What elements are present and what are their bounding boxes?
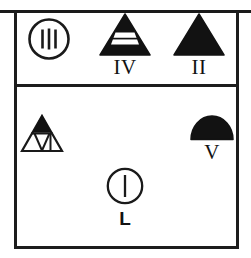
solid-semicircle-icon: [189, 114, 235, 141]
circle-three-bars-icon: [26, 16, 72, 62]
symbol-triangle-banded: IV: [99, 13, 151, 78]
circle-one-bar-icon: [105, 166, 145, 206]
symbol-circle-one-bar: L: [105, 166, 145, 228]
symbol-label-v: V: [204, 142, 220, 163]
triangle-inscribed-triangles-icon: [20, 114, 64, 154]
symbol-solid-triangle: II: [173, 13, 225, 78]
symbol-circle-three-bars: [26, 16, 72, 62]
symbol-label-iv: IV: [113, 57, 136, 78]
symbol-nested-triangle: [20, 114, 64, 154]
register-divider-rule: [14, 84, 239, 87]
symbol-solid-dome: V: [189, 114, 235, 163]
solid-triangle-icon: [173, 13, 225, 56]
symbol-label-ii: II: [192, 57, 207, 78]
symbol-label-l: L: [119, 209, 131, 228]
figure-plate: IV II: [0, 0, 251, 258]
triangle-white-band-icon: [99, 13, 151, 56]
